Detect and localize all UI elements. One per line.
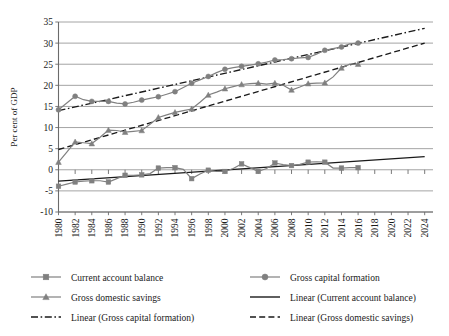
- trendline: [59, 28, 425, 110]
- series-marker-square: [289, 163, 294, 168]
- legend-marker-circle: [262, 274, 268, 280]
- x-tick-label: 2024: [420, 218, 430, 237]
- series-marker-square: [306, 160, 311, 165]
- legend-label: Gross domestic savings: [71, 293, 161, 303]
- trendlines-group: [59, 28, 425, 181]
- data-series-group: [56, 41, 361, 189]
- series-marker-square: [339, 166, 344, 171]
- series-line: [59, 162, 359, 186]
- chart-canvas: 35302520151050-5-10 19801982198419861988…: [0, 0, 449, 336]
- series-marker-square: [239, 162, 244, 167]
- series-marker-circle: [222, 67, 227, 72]
- x-tick-label: 2012: [320, 218, 330, 237]
- x-tick-label: 1986: [104, 218, 114, 237]
- legend-item[interactable]: Linear (Current account balance): [250, 293, 416, 304]
- legend-label: Linear (Gross domestic savings): [290, 313, 413, 324]
- series-marker-circle: [106, 99, 111, 104]
- x-tick-label: 1998: [204, 218, 214, 237]
- x-tick-label: 1996: [187, 218, 197, 237]
- chart-container: 35302520151050-5-10 19801982198419861988…: [0, 0, 449, 336]
- series-marker-square: [206, 168, 211, 173]
- x-tick-label: 2002: [237, 218, 247, 237]
- x-tick-marks: [59, 170, 434, 215]
- series-marker-circle: [189, 81, 194, 86]
- x-tick-label: 2000: [220, 218, 230, 237]
- trendline: [59, 157, 425, 181]
- series-marker-square: [356, 165, 361, 170]
- legend-item[interactable]: Gross domestic savings: [31, 293, 161, 303]
- x-tick-label: 1984: [87, 218, 97, 237]
- x-tick-label: 2014: [337, 218, 347, 237]
- series-marker-square: [156, 166, 161, 171]
- series-marker-circle: [89, 99, 94, 104]
- series-marker-circle: [73, 94, 78, 99]
- legend-label: Gross capital formation: [290, 273, 380, 283]
- y-tick-label: 25: [44, 60, 54, 70]
- y-tick-label: 35: [44, 17, 54, 27]
- series-marker-square: [56, 184, 61, 189]
- x-tick-label: 1988: [120, 218, 130, 237]
- x-tick-label: 1982: [71, 218, 81, 237]
- y-tick-label: -10: [40, 207, 53, 217]
- x-tick-label: 2016: [354, 218, 364, 237]
- y-tick-label: 0: [48, 165, 53, 175]
- series-marker-square: [189, 176, 194, 181]
- x-tick-label: 1980: [54, 218, 64, 237]
- x-tick-label: 2004: [254, 218, 264, 237]
- gridlines-group: [59, 22, 434, 212]
- x-tick-label: 2022: [403, 218, 413, 237]
- series-marker-square: [123, 173, 128, 178]
- legend-label: Linear (Current account balance): [290, 293, 416, 304]
- legend-item[interactable]: Linear (Gross domestic savings): [250, 313, 413, 324]
- series-marker-circle: [306, 55, 311, 60]
- legend-label: Linear (Gross capital formation): [71, 313, 194, 324]
- series-marker-circle: [206, 74, 211, 79]
- series-marker-circle: [289, 56, 294, 61]
- legend-group: Current account balanceGross capital for…: [31, 273, 416, 324]
- series-marker-square: [73, 180, 78, 185]
- series-marker-circle: [256, 61, 261, 66]
- x-tick-label: 2018: [370, 218, 380, 237]
- series-marker-square: [106, 180, 111, 185]
- legend-marker-square: [43, 274, 49, 280]
- x-tick-label: 1992: [154, 218, 164, 237]
- series-marker-circle: [56, 107, 61, 112]
- y-tick-label: 20: [44, 81, 54, 91]
- legend-label: Current account balance: [71, 273, 163, 283]
- series-marker-square: [323, 160, 328, 165]
- y-axis-title-text: Per cent of GDP: [9, 87, 19, 146]
- series-marker-circle: [356, 41, 361, 46]
- x-tick-label: 2008: [287, 218, 297, 237]
- y-tick-label: -5: [45, 186, 53, 196]
- series-marker-circle: [173, 89, 178, 94]
- series-marker-circle: [156, 94, 161, 99]
- series-marker-circle: [339, 44, 344, 49]
- legend-item[interactable]: Current account balance: [31, 273, 163, 283]
- y-tick-label: 10: [44, 123, 54, 133]
- x-tick-label: 1994: [170, 218, 180, 237]
- series-marker-square: [89, 178, 94, 183]
- legend-item[interactable]: Linear (Gross capital formation): [31, 313, 194, 324]
- trendline: [59, 43, 425, 149]
- series-marker-circle: [139, 98, 144, 103]
- x-tick-label: 1990: [137, 218, 147, 237]
- x-tick-label: 2006: [270, 218, 280, 237]
- x-tick-label: 2020: [387, 218, 397, 237]
- y-tick-labels: 35302520151050-5-10: [40, 17, 58, 217]
- x-tick-label: 2010: [304, 218, 314, 237]
- series-marker-circle: [272, 58, 277, 63]
- legend-item[interactable]: Gross capital formation: [250, 273, 380, 283]
- series-marker-square: [173, 165, 178, 170]
- x-tick-labels: 1980198219841986198819901992199419961998…: [54, 218, 430, 237]
- series-marker-circle: [239, 64, 244, 69]
- series-marker-square: [273, 161, 278, 166]
- series-marker-circle: [123, 101, 128, 106]
- series-marker-circle: [322, 48, 327, 53]
- series-marker-square: [256, 169, 261, 174]
- y-tick-label: 5: [48, 144, 53, 154]
- y-tick-label: 30: [44, 39, 54, 49]
- series-marker-square: [139, 173, 144, 178]
- y-axis-title: Per cent of GDP: [9, 87, 19, 146]
- y-tick-label: 15: [44, 102, 54, 112]
- series-marker-square: [223, 169, 228, 174]
